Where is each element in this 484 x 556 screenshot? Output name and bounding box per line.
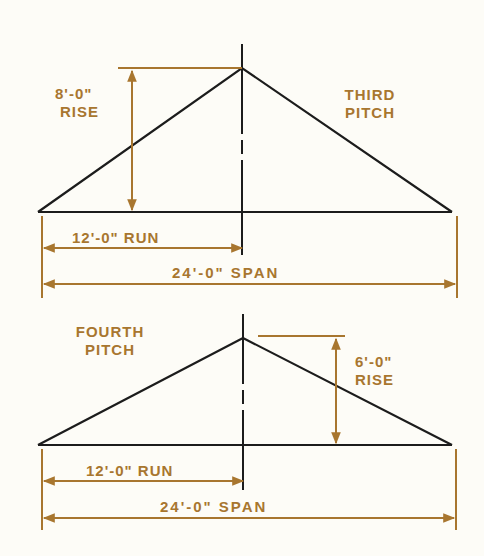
fourth-pitch-title-line2: PITCH [65, 341, 155, 358]
fourth-pitch-title-line1: FOURTH [65, 323, 155, 340]
third-rise-label: RISE [60, 103, 99, 120]
third-run-label: 12'-0" RUN [72, 229, 159, 246]
third-pitch-title-line1: THIRD [335, 86, 405, 103]
third-span-label: 24'-0" SPAN [172, 264, 279, 281]
fourth-run-label: 12'-0" RUN [86, 462, 173, 479]
third-rise-value: 8'-0" [55, 85, 92, 102]
third-pitch-title-line2: PITCH [335, 104, 405, 121]
third-pitch-diagram [38, 44, 457, 298]
fourth-rise-value: 6'-0" [355, 353, 392, 370]
fourth-span-label: 24'-0" SPAN [160, 498, 267, 515]
fourth-rise-label: RISE [355, 371, 394, 388]
